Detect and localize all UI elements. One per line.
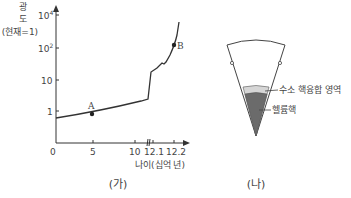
label-hydrogen-fusion-zone: 수소 핵융합 영역 (279, 84, 341, 95)
edge-marker (230, 61, 233, 64)
y-tick-label: 1 (47, 107, 53, 117)
y-axis-label-line3: (현재=1) (2, 27, 38, 37)
x-axis-arrow-icon (183, 140, 190, 146)
axis-break-mark (147, 139, 148, 146)
x-tick-label: 12.1 (144, 147, 164, 157)
x-tick-label: 0 (50, 147, 56, 157)
point-a-label: A (87, 101, 95, 111)
label-helium-core: 헬륨핵 (272, 104, 296, 115)
x-axis-label: 나이(십억 년) (135, 159, 185, 170)
caption-a: (가) (109, 178, 128, 191)
panel-b: 수소 핵융합 영역 헬륨핵 (나) (227, 40, 341, 191)
edge-marker (278, 61, 281, 64)
point-a-marker (90, 112, 94, 116)
x-tick-label: 5 (90, 147, 96, 157)
point-b-marker (172, 43, 176, 47)
caption-b: (나) (247, 178, 266, 191)
y-axis-label-line1: 광 (19, 1, 27, 12)
figure-canvas: 104 102 10 1 광 도 (현재=1) 0 5 10 12.1 12.2… (0, 0, 351, 198)
luminosity-curve (56, 22, 179, 118)
axis-break-mark (149, 139, 150, 146)
y-tick-label: 10 (41, 76, 53, 86)
x-tick-label: 10 (129, 147, 141, 157)
y-tick-label: 102 (38, 42, 53, 54)
y-tick-label: 104 (38, 9, 53, 21)
point-b-label: B (177, 41, 184, 51)
y-axis-label-line2: 도 (19, 14, 27, 24)
y-axis-arrow-icon (53, 5, 59, 12)
panel-a: 104 102 10 1 광 도 (현재=1) 0 5 10 12.1 12.2… (2, 1, 190, 191)
helium-core (245, 93, 267, 137)
x-tick-label: 12.2 (166, 147, 186, 157)
